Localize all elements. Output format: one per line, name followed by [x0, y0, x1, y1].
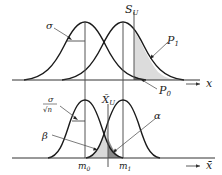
sigma-label: σ — [46, 20, 54, 31]
sigma-n-numerator: σ — [48, 95, 54, 104]
p1-label: P1 — [166, 34, 179, 48]
axis-arrow-head-top — [196, 82, 200, 85]
p1-leader — [152, 42, 168, 57]
sigma-leader — [54, 28, 70, 38]
p0-label: P0 — [158, 84, 171, 98]
p0-leader — [142, 80, 157, 89]
su-label: SU — [125, 3, 140, 17]
p1-shaded-area — [134, 31, 184, 80]
alpha-leader — [115, 118, 156, 151]
beta-label: β — [41, 130, 48, 141]
top-panel — [12, 12, 200, 89]
sigma-n-denominator: √n — [43, 106, 52, 114]
sampling-distribution-diagram: SU σ P1 P0 x σ √n X̄U α β m0 m1 x̄ — [0, 0, 222, 175]
m1-label: m1 — [119, 161, 131, 172]
axis-arrow-head-bottom — [196, 164, 200, 167]
x-axis-label: x — [206, 77, 213, 90]
m0-label: m0 — [78, 161, 91, 172]
alpha-label: α — [154, 110, 161, 121]
xbar-axis-label: x̄ — [206, 159, 213, 172]
beta-leader — [52, 135, 96, 149]
xu-label: X̄U — [101, 94, 116, 107]
